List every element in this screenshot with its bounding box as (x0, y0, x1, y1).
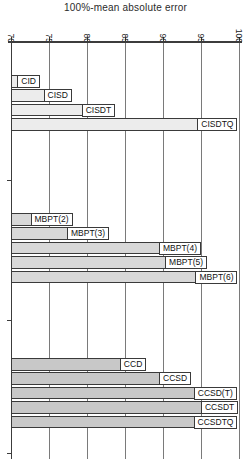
x-tick-label: 90 (157, 13, 169, 43)
bar (11, 213, 32, 226)
x-tick-label: 75 (43, 13, 55, 43)
bar-label: CCSD (159, 372, 191, 385)
bar-label: CISDT (82, 104, 116, 117)
bar-chart: 100%-mean absolute error 707580859095100… (0, 0, 251, 460)
bar-label: CCSDT (201, 401, 238, 414)
bar-label: CCSDTQ (194, 416, 238, 429)
y-axis-tick (7, 453, 11, 454)
y-axis-tick (7, 320, 11, 321)
bar-label: CCD (120, 358, 146, 371)
bar-label: CCSD(T) (194, 387, 237, 400)
bar-label: MBPT(4) (159, 242, 201, 255)
x-tick-label: 95 (195, 13, 207, 43)
x-axis-line (8, 41, 242, 43)
x-tick-label: 80 (81, 13, 93, 43)
bar-label: MBPT(3) (67, 227, 109, 240)
bar-label: CID (17, 75, 40, 88)
bar (11, 227, 68, 240)
x-tick-label: 85 (119, 13, 131, 43)
grid-line (239, 42, 240, 459)
bar-label: MBPT(2) (31, 213, 73, 226)
x-tick-label: 70 (5, 13, 17, 43)
bar-label: MBPT(6) (195, 271, 237, 284)
bar-label: CISD (44, 89, 72, 102)
chart-title: 100%-mean absolute error (0, 2, 251, 13)
bar-label: CISDTQ (197, 118, 237, 131)
y-axis-tick (7, 180, 11, 181)
x-tick-label: 100 (233, 13, 245, 43)
bar-label: MBPT(5) (165, 256, 207, 269)
